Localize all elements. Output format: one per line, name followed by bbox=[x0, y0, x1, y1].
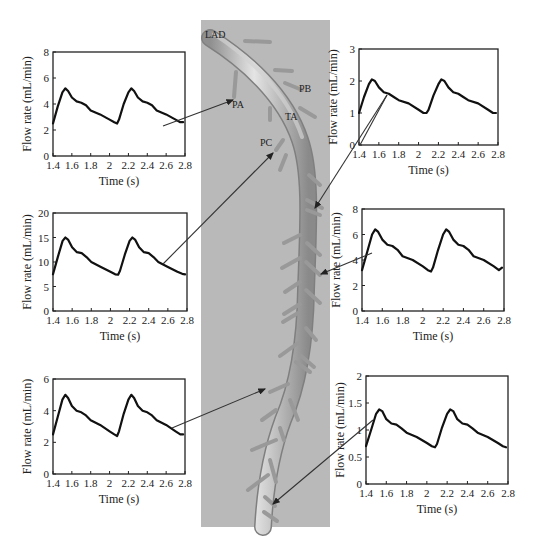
x-tick-label: 1.6 bbox=[65, 477, 79, 489]
x-axis-label: Time (s) bbox=[100, 329, 141, 343]
x-tick-label: 1.8 bbox=[84, 477, 98, 489]
x-tick-label: 1.6 bbox=[379, 487, 393, 499]
flow-chart-bottom-right: 1.41.61.822.22.42.62.800.511.52Time (s)F… bbox=[333, 370, 515, 516]
y-tick-label: 0 bbox=[44, 150, 50, 162]
x-tick-label: 1.6 bbox=[65, 159, 79, 171]
x-tick-label: 2.2 bbox=[440, 487, 454, 499]
vessel-label-pc: PC bbox=[260, 137, 273, 148]
x-tick-label: 2.4 bbox=[142, 314, 156, 326]
y-tick-label: 6 bbox=[353, 229, 359, 241]
y-tick-label: 5 bbox=[44, 281, 50, 293]
x-tick-label: 2 bbox=[108, 314, 114, 326]
y-tick-label: 4 bbox=[44, 405, 50, 417]
x-tick-label: 2.8 bbox=[501, 487, 515, 499]
y-tick-label: 2 bbox=[44, 436, 50, 448]
plot-frame bbox=[366, 376, 508, 484]
x-tick-label: 1.8 bbox=[84, 159, 98, 171]
x-tick-label: 2.2 bbox=[436, 314, 450, 326]
flow-chart-top-right: 1.41.61.822.22.42.62.80123Time (s)Flow r… bbox=[326, 43, 505, 177]
y-tick-label: 15 bbox=[38, 232, 50, 244]
y-axis-label: Flow rate (mL/min) bbox=[20, 214, 34, 309]
y-tick-label: 8 bbox=[353, 203, 359, 215]
flow-chart-top-left: 1.41.61.822.22.42.62.802468Time (s)Flow … bbox=[20, 46, 192, 188]
x-axis-label: Time (s) bbox=[408, 163, 449, 177]
figure-canvas: LADPAPBTAPC 1.41.61.822.22.42.62.802468T… bbox=[0, 0, 540, 544]
x-tick-label: 2.8 bbox=[178, 477, 192, 489]
x-tick-label: 1.8 bbox=[400, 487, 414, 499]
y-tick-label: 0 bbox=[357, 478, 363, 490]
x-tick-label: 2.6 bbox=[159, 159, 173, 171]
x-tick-label: 2.4 bbox=[140, 159, 154, 171]
y-axis-label: Flow rate (mL/min) bbox=[333, 382, 347, 477]
y-tick-label: 3 bbox=[350, 43, 356, 55]
y-tick-label: 6 bbox=[44, 373, 50, 385]
y-tick-label: 20 bbox=[38, 207, 50, 219]
figure: LADPAPBTAPC 1.41.61.822.22.42.62.802468T… bbox=[0, 0, 540, 544]
x-tick-label: 2 bbox=[416, 148, 422, 160]
x-tick-label: 2 bbox=[424, 487, 430, 499]
y-axis-label: Flow rate (mL/min) bbox=[326, 49, 340, 144]
x-tick-label: 2.2 bbox=[122, 477, 136, 489]
x-axis-label: Time (s) bbox=[99, 174, 140, 188]
y-tick-label: 1.5 bbox=[348, 397, 362, 409]
x-tick-label: 2.2 bbox=[122, 159, 136, 171]
flow-chart-middle-right: 1.41.61.822.22.42.62.802468Time (s)Flow … bbox=[329, 203, 511, 343]
vessel-label-pb: PB bbox=[299, 83, 312, 94]
x-tick-label: 2.8 bbox=[178, 159, 192, 171]
x-tick-label: 2 bbox=[420, 314, 426, 326]
x-tick-label: 2.6 bbox=[161, 314, 175, 326]
x-tick-label: 2 bbox=[107, 477, 113, 489]
x-tick-label: 2.2 bbox=[123, 314, 137, 326]
y-tick-label: 0 bbox=[44, 468, 50, 480]
x-tick-label: 2.6 bbox=[481, 487, 495, 499]
y-tick-label: 8 bbox=[44, 46, 50, 58]
x-tick-label: 2.8 bbox=[497, 314, 511, 326]
y-tick-label: 10 bbox=[38, 256, 50, 268]
x-axis-label: Time (s) bbox=[413, 329, 454, 343]
x-tick-label: 2.8 bbox=[180, 314, 194, 326]
vessel-label-lad: LAD bbox=[205, 29, 226, 40]
y-tick-label: 0 bbox=[353, 305, 359, 317]
y-tick-label: 0.5 bbox=[348, 451, 362, 463]
x-tick-label: 2.4 bbox=[461, 487, 475, 499]
plot-frame bbox=[53, 52, 185, 156]
x-tick-label: 1.6 bbox=[65, 314, 79, 326]
x-tick-label: 2.6 bbox=[477, 314, 491, 326]
x-tick-label: 1.8 bbox=[392, 148, 406, 160]
x-tick-label: 2.4 bbox=[457, 314, 471, 326]
plot-frame bbox=[359, 49, 498, 145]
y-tick-label: 1 bbox=[350, 107, 356, 119]
flow-chart-bottom-left: 1.41.61.822.22.42.62.80246Time (s)Flow r… bbox=[20, 373, 192, 506]
vessel-label-pa: PA bbox=[232, 99, 245, 110]
x-tick-label: 2.4 bbox=[451, 148, 465, 160]
y-axis-label: Flow rate (mL/min) bbox=[329, 212, 343, 307]
flow-chart-middle-left: 1.41.61.822.22.42.62.805101520Time (s)Fl… bbox=[20, 207, 194, 343]
x-tick-label: 1.8 bbox=[84, 314, 98, 326]
x-tick-label: 1.6 bbox=[375, 314, 389, 326]
arrow bbox=[172, 389, 265, 428]
x-tick-label: 2.4 bbox=[140, 477, 154, 489]
y-tick-label: 2 bbox=[44, 124, 50, 136]
y-tick-label: 2 bbox=[357, 370, 363, 382]
x-tick-label: 2.2 bbox=[432, 148, 446, 160]
y-tick-label: 4 bbox=[44, 98, 50, 110]
x-axis-label: Time (s) bbox=[99, 492, 140, 506]
y-tick-label: 0 bbox=[44, 305, 50, 317]
x-tick-label: 2.6 bbox=[159, 477, 173, 489]
y-tick-label: 2 bbox=[353, 280, 359, 292]
y-tick-label: 2 bbox=[350, 75, 356, 87]
x-axis-label: Time (s) bbox=[417, 502, 458, 516]
y-axis-label: Flow rate (mL/min) bbox=[20, 379, 34, 474]
vessel-label-ta: TA bbox=[285, 111, 298, 122]
plot-frame bbox=[53, 213, 187, 311]
x-tick-label: 2.8 bbox=[491, 148, 505, 160]
plot-frame bbox=[53, 379, 185, 474]
x-tick-label: 1.8 bbox=[396, 314, 410, 326]
y-axis-label: Flow rate (mL/min) bbox=[20, 56, 34, 151]
x-tick-label: 2 bbox=[107, 159, 113, 171]
x-tick-label: 1.6 bbox=[372, 148, 386, 160]
x-tick-label: 2.6 bbox=[471, 148, 485, 160]
y-tick-label: 6 bbox=[44, 72, 50, 84]
